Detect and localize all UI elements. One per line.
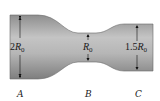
section-label-b: B [84,89,92,99]
pipe-diagram: 2R0 R0 1.5R0 A B C [0,0,160,101]
section-label-a: A [16,89,24,99]
section-label-c: C [135,89,142,99]
